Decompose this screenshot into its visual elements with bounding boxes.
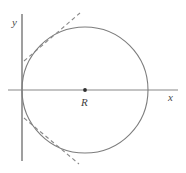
y-axis-label: y: [11, 16, 17, 28]
upper-tangent-line: [24, 13, 80, 61]
figure-container: y x R: [0, 0, 186, 173]
radius-label: R: [80, 96, 88, 108]
center-point-dot: [83, 88, 87, 92]
x-axis-label: x: [167, 91, 173, 103]
geometry-figure: y x R: [0, 0, 186, 173]
lower-tangent-line: [24, 118, 79, 164]
